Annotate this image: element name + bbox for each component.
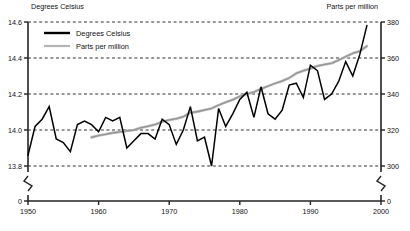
x-tick-label: 1950 — [20, 207, 36, 216]
right-axis-title: Parts per million — [326, 2, 378, 11]
left-axis — [24, 22, 32, 201]
chart-container: 13.814.014.214.414.60 3003203403603800 1… — [0, 0, 410, 231]
left-tick-label: 14.6 — [8, 18, 22, 27]
right-tick-label: 380 — [387, 18, 399, 27]
x-tick-label: 1980 — [232, 207, 248, 216]
left-tick-label: 14.4 — [8, 54, 22, 63]
series-parts-per-million — [92, 46, 367, 137]
x-tick-label: 1960 — [91, 207, 107, 216]
right-tick-label-zero: 0 — [387, 197, 391, 206]
right-tick-label: 340 — [387, 90, 399, 99]
left-tick-label: 13.8 — [8, 162, 22, 171]
right-tick-label: 360 — [387, 54, 399, 63]
right-tick-label: 320 — [387, 126, 399, 135]
left-tick-label-zero: 0 — [18, 197, 22, 206]
left-tick-label: 14.0 — [8, 126, 22, 135]
left-tick-label: 14.2 — [8, 90, 22, 99]
left-axis-title: Degrees Celsius — [31, 2, 84, 11]
dual-axis-line-chart: 13.814.014.214.414.60 3003203403603800 1… — [0, 0, 410, 231]
right-axis-tick-labels: 3003203403603800 — [387, 18, 399, 206]
right-axis — [377, 22, 385, 201]
right-tick-label: 300 — [387, 162, 399, 171]
legend-label-parts-per-million: Parts per million — [76, 42, 129, 51]
left-axis-tick-labels: 13.814.014.214.414.60 — [8, 18, 22, 206]
legend: Degrees Celsius Parts per million — [44, 29, 131, 51]
x-tick-label: 1970 — [161, 207, 177, 216]
x-tick-label: 1990 — [302, 207, 318, 216]
legend-label-degrees-celsius: Degrees Celsius — [76, 29, 131, 38]
x-axis-tick-labels: 195019601970198019902000 — [20, 207, 389, 216]
x-tick-label: 2000 — [373, 207, 389, 216]
